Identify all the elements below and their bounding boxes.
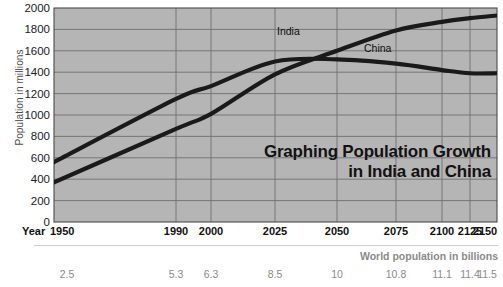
footer-divider [34, 245, 498, 246]
world-population-tick: 10.8 [386, 268, 406, 280]
series-label-china: China [364, 42, 391, 54]
x-axis-tick: 2025 [263, 225, 287, 237]
world-population-tick: 11.5 [477, 268, 497, 280]
x-axis-title: Year [22, 225, 45, 237]
x-axis-tick: 2050 [325, 225, 349, 237]
population-growth-chart: Population in millions 20001800160014001… [0, 0, 503, 287]
x-axis-tick: 2000 [199, 225, 223, 237]
world-population-tick: 10 [331, 268, 343, 280]
world-population-tick: 2.5 [60, 268, 75, 280]
chart-title-block: Graphing Population Growth in India and … [264, 142, 491, 182]
x-axis-tick: 1990 [164, 225, 188, 237]
chart-subtitle: in India and China [264, 162, 491, 182]
x-axis-tick: 2100 [430, 225, 454, 237]
series-label-india: India [277, 25, 300, 37]
chart-title: Graphing Population Growth [264, 142, 491, 162]
x-axis-tick: 2075 [384, 225, 408, 237]
world-population-tick: 11.1 [432, 268, 452, 280]
x-axis-tick: 2150 [473, 225, 497, 237]
world-population-tick: 5.3 [169, 268, 184, 280]
x-axis-tick: 1950 [50, 225, 74, 237]
world-population-tick: 6.3 [204, 268, 219, 280]
world-population-tick: 8.5 [268, 268, 283, 280]
secondary-axis-title: World population in billions [360, 250, 498, 262]
